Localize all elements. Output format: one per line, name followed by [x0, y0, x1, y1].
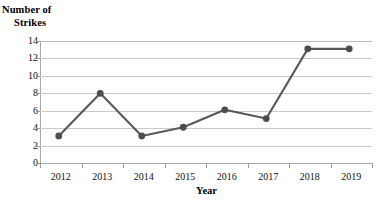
- plot-area: [40, 41, 372, 163]
- x-axis-tick-label-2015: 2015: [165, 171, 205, 183]
- x-axis-tick-label-2018: 2018: [290, 171, 330, 183]
- x-axis-tick-label-2012: 2012: [41, 171, 81, 183]
- y-axis-tick-label-14: 14: [4, 36, 38, 46]
- y-axis-tick-group: 02468101214: [0, 41, 38, 163]
- x-axis-tick-mark-2: [123, 163, 124, 168]
- y-axis-tick-label-10: 10: [4, 71, 38, 81]
- data-point-2019: [346, 45, 353, 52]
- x-axis-tick-label-group: 20122013201420152016201720182019: [40, 171, 373, 185]
- y-axis-tick-label-8: 8: [4, 88, 38, 98]
- x-axis-tick-mark-5: [248, 163, 249, 168]
- x-axis-tick-label-2016: 2016: [207, 171, 247, 183]
- y-axis-tick-label-0: 0: [4, 158, 38, 168]
- x-axis-tick-mark-3: [165, 163, 166, 168]
- x-axis-tick-mark-0: [40, 163, 41, 168]
- x-axis-tick-mark-7: [331, 163, 332, 168]
- x-axis-tick-label-2014: 2014: [124, 171, 164, 183]
- y-axis-tick-label-12: 12: [4, 53, 38, 63]
- line-series-chart: [40, 41, 372, 163]
- y-axis-tick-label-4: 4: [4, 123, 38, 133]
- y-axis-tick-label-2: 2: [4, 141, 38, 151]
- x-axis-tick-mark-4: [206, 163, 207, 168]
- data-point-2013: [97, 90, 104, 97]
- x-axis-tick-mark-8: [372, 163, 373, 168]
- x-axis-tick-label-2017: 2017: [248, 171, 288, 183]
- x-axis-tick-group: [40, 163, 373, 169]
- data-point-2018: [304, 45, 311, 52]
- data-point-2016: [221, 106, 228, 113]
- y-axis-title: Number of Strikes: [2, 4, 98, 29]
- data-point-2012: [55, 133, 62, 140]
- data-point-2017: [263, 115, 270, 122]
- data-point-2014: [138, 133, 145, 140]
- x-axis-tick-label-2019: 2019: [331, 171, 371, 183]
- data-point-2015: [180, 124, 187, 131]
- x-axis-tick-mark-1: [82, 163, 83, 168]
- y-axis-tick-label-6: 6: [4, 106, 38, 116]
- y-axis-title-line-2: Strikes: [2, 17, 98, 30]
- x-axis-tick-label-2013: 2013: [82, 171, 122, 183]
- y-axis-title-line-1: Number of: [2, 4, 98, 17]
- x-axis-title: Year: [40, 185, 373, 197]
- x-axis-tick-mark-6: [289, 163, 290, 168]
